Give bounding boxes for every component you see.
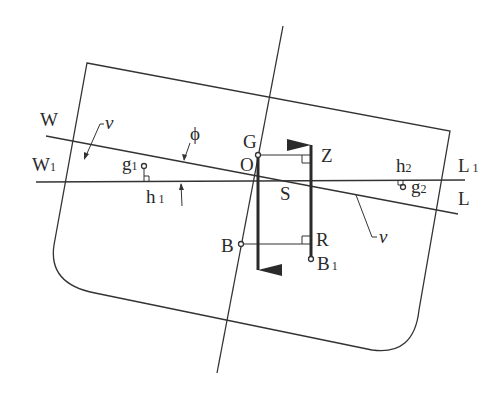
phi-arrow-top-head bbox=[182, 154, 187, 161]
label-L1-sub: 1 bbox=[473, 161, 479, 175]
label-Z: Z bbox=[321, 145, 333, 166]
label-B: B bbox=[221, 235, 234, 256]
waterline-W1L1 bbox=[36, 180, 465, 182]
label-B1-sub: 1 bbox=[332, 259, 338, 273]
label-v-right: v bbox=[379, 226, 388, 247]
label-L1: L1 bbox=[458, 155, 479, 176]
v-left-leader-head bbox=[84, 152, 89, 160]
label-g2-main: g bbox=[411, 176, 421, 197]
label-g1-main: g bbox=[122, 153, 132, 174]
label-h2: h2 bbox=[396, 155, 412, 176]
point-B1 bbox=[309, 257, 314, 262]
label-W: W bbox=[40, 109, 58, 130]
stability-diagram: W W1 L1 L G O Z S R B B1 g1 h1 h2 g2 ϕ v… bbox=[0, 0, 504, 400]
label-g1-sub: 1 bbox=[132, 159, 138, 173]
label-v-left: v bbox=[105, 112, 114, 133]
label-R: R bbox=[316, 229, 329, 250]
label-g2-sub: 2 bbox=[421, 182, 427, 196]
label-W1: W1 bbox=[32, 154, 56, 175]
label-g2: g2 bbox=[411, 176, 427, 197]
right-angle-h1 bbox=[144, 176, 149, 181]
label-g1: g1 bbox=[122, 153, 138, 174]
hull-outline bbox=[53, 63, 450, 351]
v-left-leader bbox=[85, 124, 104, 158]
v-right-leader bbox=[356, 195, 377, 237]
label-h2-main: h bbox=[396, 155, 406, 176]
point-g1 bbox=[142, 164, 147, 169]
label-h1-main: h bbox=[146, 186, 156, 207]
label-B1-main: B bbox=[317, 253, 330, 274]
label-O: O bbox=[240, 154, 254, 175]
label-G: G bbox=[243, 131, 257, 152]
label-phi: ϕ bbox=[190, 123, 200, 144]
point-B bbox=[239, 242, 244, 247]
point-G bbox=[256, 153, 261, 158]
label-h2-sub: 2 bbox=[406, 161, 412, 175]
label-B1: B1 bbox=[317, 253, 338, 274]
label-W1-sub: 1 bbox=[50, 160, 56, 174]
label-S: S bbox=[280, 183, 291, 204]
label-L1-main: L bbox=[458, 155, 470, 176]
label-h1-sub: 1 bbox=[159, 192, 165, 206]
label-W1-main: W bbox=[32, 154, 50, 175]
label-L: L bbox=[458, 188, 470, 209]
ship-centerline bbox=[217, 26, 283, 373]
label-h1: h1 bbox=[146, 186, 165, 207]
